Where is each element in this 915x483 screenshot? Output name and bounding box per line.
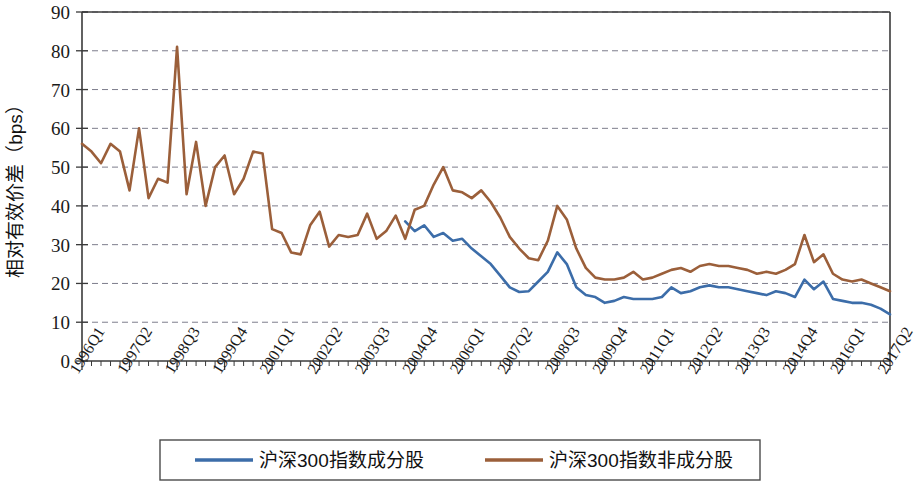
x-tick-label-2017Q2: 2017Q2: [874, 324, 915, 377]
x-tick-label-2007Q2: 2007Q2: [494, 324, 536, 377]
x-tick-label-2002Q2: 2002Q2: [304, 324, 346, 377]
legend-label-1: 沪深300指数非成分股: [549, 450, 733, 471]
chart-legend: 沪深300指数成分股沪深300指数非成分股: [160, 440, 760, 480]
x-tick-label-1997Q2: 1997Q2: [114, 324, 156, 377]
x-tick-label-1996Q1: 1996Q1: [66, 324, 108, 377]
x-axis-tick-labels: 1996Q11997Q21998Q31999Q42001Q12002Q22003…: [66, 324, 915, 377]
y-tick-label-90: 90: [51, 2, 70, 23]
legend-label-0: 沪深300指数成分股: [259, 450, 424, 471]
y-tick-label-40: 40: [51, 196, 70, 217]
series-line-csi300-non-constituents: [82, 47, 890, 291]
y-axis-tick-labels: 0102030405060708090: [51, 2, 70, 372]
x-tick-label-2014Q4: 2014Q4: [779, 324, 821, 377]
x-tick-label-2012Q2: 2012Q2: [684, 324, 726, 377]
series-line-csi300-constituents: [405, 221, 890, 314]
y-axis-title: 相对有效价差（bps）: [5, 95, 26, 278]
y-tick-label-10: 10: [51, 312, 70, 333]
gridlines: [82, 12, 890, 322]
y-tick-label-30: 30: [51, 235, 70, 256]
x-tick-label-1999Q4: 1999Q4: [209, 324, 251, 377]
x-tick-label-2013Q3: 2013Q3: [732, 324, 774, 377]
y-tick-label-60: 60: [51, 118, 70, 139]
x-tick-label-2004Q4: 2004Q4: [399, 324, 441, 377]
y-axis-title-text: 相对有效价差（bps）: [5, 95, 26, 278]
chart-container: 0102030405060708090 1996Q11997Q21998Q319…: [0, 0, 915, 483]
x-tick-label-2011Q1: 2011Q1: [636, 324, 677, 376]
x-tick-label-1998Q3: 1998Q3: [161, 324, 203, 377]
x-tick-label-2009Q4: 2009Q4: [589, 324, 631, 377]
x-tick-label-2008Q3: 2008Q3: [541, 324, 583, 377]
y-tick-label-50: 50: [51, 157, 70, 178]
x-tick-label-2001Q1: 2001Q1: [256, 324, 298, 377]
x-tick-label-2006Q1: 2006Q1: [446, 324, 488, 377]
y-tick-label-80: 80: [51, 41, 70, 62]
effective-spread-line-chart: 0102030405060708090 1996Q11997Q21998Q319…: [0, 0, 915, 483]
y-tick-label-20: 20: [51, 273, 70, 294]
x-tick-label-2003Q3: 2003Q3: [351, 324, 393, 377]
data-series: [82, 47, 890, 315]
y-tick-label-70: 70: [51, 80, 70, 101]
x-tick-label-2016Q1: 2016Q1: [827, 324, 869, 377]
